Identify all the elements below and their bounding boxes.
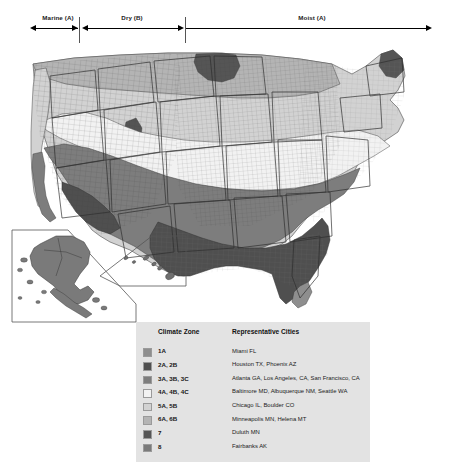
legend-rows: 1A Miami FL 2A, 2B Houston TX, Phoenix A… xyxy=(136,346,370,455)
legend-cities-1a: Miami FL xyxy=(232,348,256,354)
legend-swatch-1a xyxy=(143,348,152,357)
legend-zone-4a-4b-4c: 4A, 4B, 4C xyxy=(158,388,189,395)
legend-swatch-3a-3b-3c xyxy=(143,376,152,385)
scale-label-dry: Dry (B) xyxy=(102,14,162,21)
legend-zone-6a-6b: 6A, 6B xyxy=(158,415,177,422)
dry-right-arrow-icon xyxy=(178,25,184,31)
legend-row-6a-6b[interactable]: 6A, 6B Minneapolis MN, Helena MT xyxy=(136,414,370,428)
legend-row-1a[interactable]: 1A Miami FL xyxy=(136,346,370,360)
legend-header-climate-zone: Climate Zone xyxy=(158,328,199,335)
map-layer-conus xyxy=(31,50,405,308)
legend-zone-3a-3b-3c: 3A, 3B, 3C xyxy=(158,375,189,382)
legend-zone-1a: 1A xyxy=(158,347,166,354)
legend-cities-3a-3b-3c: Atlanta GA, Los Angeles, CA, San Francis… xyxy=(232,375,360,381)
map-svg xyxy=(0,36,459,324)
moist-right-arrow-icon xyxy=(426,25,432,31)
legend-row-7[interactable]: 7 Duluth MN xyxy=(136,428,370,442)
legend-cities-2a-2b: Houston TX, Phoenix AZ xyxy=(232,361,296,367)
legend-cities-7: Duluth MN xyxy=(232,429,260,435)
legend-swatch-8 xyxy=(143,444,152,453)
legend-header-row: Climate Zone Representative Cities xyxy=(136,328,370,342)
legend-cities-4a-4b-4c: Baltimore MD, Albuquerque NM, Seattle WA xyxy=(232,388,347,394)
climate-zone-figure: Marine (A) Dry (B) Moist (A) xyxy=(0,0,459,470)
map-legend: Climate Zone Representative Cities 1A Mi… xyxy=(136,322,370,462)
legend-swatch-5a-5b xyxy=(143,403,152,412)
scale-label-moist: Moist (A) xyxy=(281,14,343,21)
legend-swatch-2a-2b xyxy=(143,362,152,371)
legend-cities-8: Fairbanks AK xyxy=(232,443,267,449)
us-climate-zone-map xyxy=(0,36,459,324)
legend-cities-5a-5b: Chicago IL, Boulder CO xyxy=(232,402,294,408)
legend-row-2a-2b[interactable]: 2A, 2B Houston TX, Phoenix AZ xyxy=(136,360,370,374)
legend-row-5a-5b[interactable]: 5A, 5B Chicago IL, Boulder CO xyxy=(136,400,370,414)
legend-zone-8: 8 xyxy=(158,443,161,450)
legend-swatch-6a-6b xyxy=(143,416,152,425)
legend-header-representative-cities: Representative Cities xyxy=(232,328,299,335)
dry-scale-line xyxy=(86,28,178,29)
legend-zone-5a-5b: 5A, 5B xyxy=(158,402,177,409)
legend-zone-7: 7 xyxy=(158,429,161,436)
legend-cities-6a-6b: Minneapolis MN, Helena MT xyxy=(232,416,306,422)
legend-row-4a-4b-4c[interactable]: 4A, 4B, 4C Baltimore MD, Albuquerque NM,… xyxy=(136,387,370,401)
legend-row-8[interactable]: 8 Fairbanks AK xyxy=(136,441,370,455)
marine-right-arrow-icon xyxy=(72,25,78,31)
legend-zone-2a-2b: 2A, 2B xyxy=(158,361,177,368)
county-texture-east xyxy=(300,60,404,222)
legend-row-3a-3b-3c[interactable]: 3A, 3B, 3C Atlanta GA, Los Angeles, CA, … xyxy=(136,373,370,387)
legend-swatch-4a-4b-4c xyxy=(143,389,152,398)
legend-swatch-7 xyxy=(143,430,152,439)
moist-scale-line xyxy=(186,28,426,29)
